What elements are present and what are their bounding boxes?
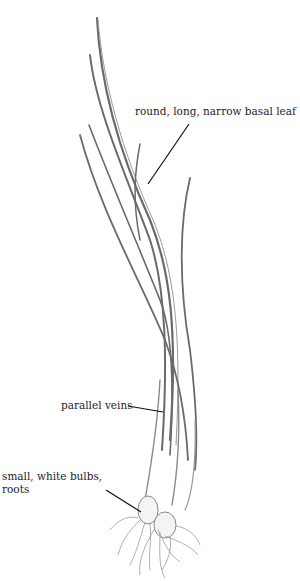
label-bulbs-roots: small, white bulbs, roots: [2, 470, 102, 496]
bulbs-leader-line: [106, 490, 141, 512]
leaf-leader-line: [148, 124, 189, 184]
label-basal-leaf: round, long, narrow basal leaf: [135, 105, 296, 118]
label-parallel-veins: parallel veins: [61, 399, 133, 412]
plant-illustration: round, long, narrow basal leaf parallel …: [0, 0, 300, 581]
